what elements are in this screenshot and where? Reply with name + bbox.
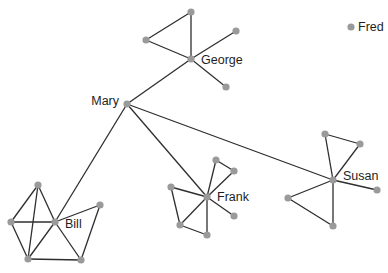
node-b_left — [7, 218, 14, 225]
node-f_right — [230, 212, 237, 219]
node-label-frank: Frank — [217, 190, 250, 204]
edge-g_top-g_left — [146, 12, 191, 40]
label-layer: GeorgeFredMaryBillFrankSusan — [65, 20, 384, 231]
edge-s_top-s_top_right — [325, 134, 360, 144]
node-g_right_down — [222, 83, 229, 90]
edge-b_right-b_bottom_right — [81, 205, 100, 260]
edge-susan-s_top — [325, 134, 333, 180]
node-f_bottom — [203, 231, 210, 238]
node-b_right — [96, 201, 103, 208]
edge-mary-frank — [127, 104, 207, 197]
edge-mary-bill — [55, 104, 127, 222]
node-frank — [203, 193, 210, 200]
node-g_top — [187, 8, 194, 15]
node-s_top_right — [356, 140, 363, 147]
node-b_bottom_right — [77, 256, 84, 263]
node-f_top — [212, 156, 219, 163]
node-s_top — [321, 130, 328, 137]
node-b_bottom_left — [24, 255, 31, 262]
edge-susan-s_left — [288, 180, 333, 198]
edge-f_bottom_left-frank — [180, 197, 207, 225]
node-label-fred: Fred — [358, 20, 384, 34]
edge-frank-f_left — [171, 187, 207, 197]
edge-g_left-george — [146, 40, 191, 59]
node-f_bottom_left — [176, 221, 183, 228]
node-s_right — [373, 186, 380, 193]
node-label-george: George — [201, 53, 243, 67]
node-f_left — [167, 183, 174, 190]
edge-b_top-bill — [38, 185, 55, 222]
edge-f_bottom_left-f_bottom — [180, 225, 207, 235]
edge-f_left-f_bottom_left — [171, 187, 180, 225]
node-george — [187, 55, 194, 62]
node-f_top_right — [230, 167, 237, 174]
network-diagram: GeorgeFredMaryBillFrankSusan — [0, 0, 388, 273]
edge-frank-f_top — [207, 160, 216, 197]
node-label-susan: Susan — [343, 169, 378, 183]
node-label-bill: Bill — [65, 217, 82, 231]
node-layer — [7, 8, 380, 263]
node-fred — [347, 23, 354, 30]
node-b_top — [34, 181, 41, 188]
node-g_left — [142, 36, 149, 43]
node-mary — [123, 100, 130, 107]
node-s_left — [284, 194, 291, 201]
edge-b_left-b_bottom_left — [11, 222, 28, 259]
node-s_bottom — [329, 222, 336, 229]
edge-george-mary — [127, 59, 191, 104]
node-susan — [329, 176, 336, 183]
node-bill — [51, 218, 58, 225]
node-g_right_up — [232, 27, 239, 34]
edge-s_left-s_bottom — [288, 198, 333, 226]
node-label-mary: Mary — [91, 94, 120, 108]
edge-b_bottom_left-b_bottom_right — [28, 259, 81, 260]
